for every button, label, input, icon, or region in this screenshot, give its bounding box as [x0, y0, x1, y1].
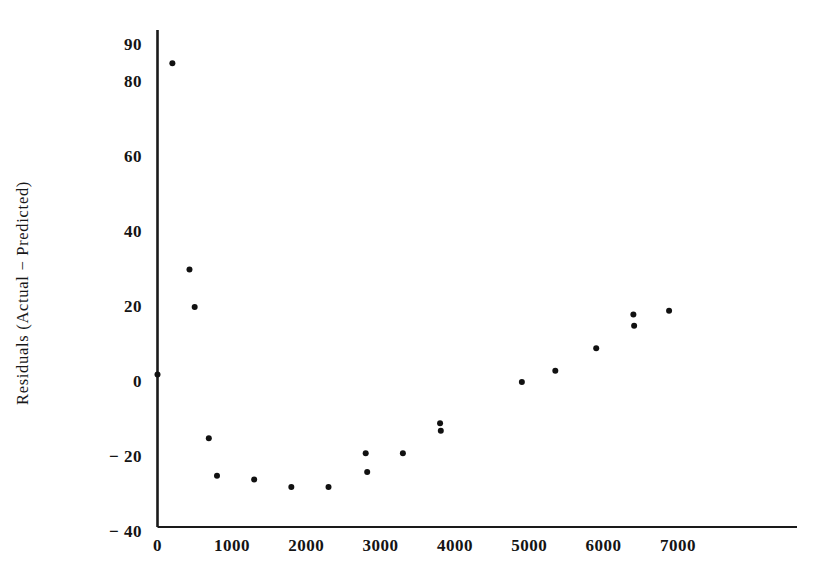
data-point — [169, 60, 175, 66]
data-point — [214, 473, 220, 479]
data-point — [326, 484, 332, 490]
data-point-group — [155, 60, 673, 490]
y-tick-label: 90 — [70, 35, 142, 55]
data-point — [519, 379, 525, 385]
data-point — [437, 420, 443, 426]
data-point — [631, 323, 637, 329]
data-point — [192, 304, 198, 310]
x-tick-label: 2000 — [288, 536, 324, 556]
x-tick-label: 5000 — [511, 536, 547, 556]
data-point — [630, 312, 636, 318]
data-point — [666, 308, 672, 314]
data-point — [364, 469, 370, 475]
data-point — [593, 345, 599, 351]
data-point — [552, 368, 558, 374]
x-tick-label: 1000 — [214, 536, 250, 556]
x-tick-label: 7000 — [660, 536, 696, 556]
data-point — [186, 267, 192, 273]
data-point — [400, 450, 406, 456]
y-tick-label: 0 — [70, 372, 142, 392]
residuals-scatter-figure: Residuals (Actual − Predicted) 908060402… — [0, 0, 824, 586]
data-point — [155, 372, 161, 378]
y-tick-label: − 40 — [70, 522, 142, 542]
y-tick-label: 40 — [70, 222, 142, 242]
x-tick-label: 3000 — [363, 536, 399, 556]
x-tick-label: 6000 — [586, 536, 622, 556]
y-tick-label: 20 — [70, 297, 142, 317]
x-tick-label: 4000 — [437, 536, 473, 556]
y-tick-label: 60 — [70, 147, 142, 167]
y-tick-label: 80 — [70, 72, 142, 92]
data-point — [288, 484, 294, 490]
data-point — [438, 428, 444, 434]
x-tick-label: 0 — [153, 536, 162, 556]
data-point — [363, 450, 369, 456]
data-point — [206, 435, 212, 441]
y-tick-label: − 20 — [70, 447, 142, 467]
data-point — [251, 477, 257, 483]
